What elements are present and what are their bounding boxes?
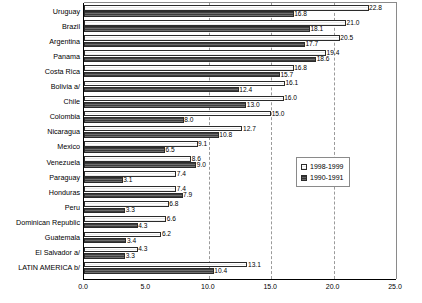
bar-value-label: 3.4: [127, 237, 136, 244]
bar-1990-1991: 12.4: [84, 87, 239, 93]
bar-value-label: 13.1: [248, 261, 261, 268]
category-label: Bolivia a/: [0, 83, 80, 90]
bar-row: Nicaragua12.710.8: [84, 125, 396, 140]
bar-row: Costa Rica16.815.7: [84, 64, 396, 79]
bar-1998-1999: 6.6: [84, 216, 166, 222]
bar-1990-1991: 3.3: [84, 208, 125, 214]
bar-row: Colombia15.08.0: [84, 110, 396, 125]
category-label: Paraguay: [0, 174, 80, 181]
bar-value-label: 17.7: [305, 41, 318, 48]
bar-row: Mexico9.16.5: [84, 140, 396, 155]
bar-value-label: 6.2: [162, 231, 171, 238]
plot-frame-right: [396, 3, 397, 279]
bar-value-label: 7.9: [183, 192, 192, 199]
bar-1990-1991: 15.7: [84, 72, 280, 78]
bar-row: El Salvador a/4.33.3: [84, 246, 396, 261]
x-axis-tick-label: 20.0: [326, 283, 340, 290]
legend-label-1990-1991: 1990-1991: [310, 174, 343, 181]
legend: 1998-1999 1990-1991: [296, 157, 350, 187]
bar-1998-1999: 16.8: [84, 65, 294, 71]
bar-value-label: 3.1: [123, 177, 132, 184]
bar-1990-1991: 10.4: [84, 268, 214, 274]
category-label: Venezuela: [0, 159, 80, 166]
legend-item-1998-1999: 1998-1999: [301, 161, 343, 172]
bar-value-label: 4.3: [138, 222, 147, 229]
bar-value-label: 3.3: [126, 252, 135, 259]
bar-value-label: 10.8: [219, 132, 232, 139]
category-label: Mexico: [0, 144, 80, 151]
category-label: Argentina: [0, 38, 80, 45]
plot-area: Uruguay22.816.8Brazil21.018.1Argentina20…: [83, 3, 396, 279]
bar-1990-1991: 3.1: [84, 177, 123, 183]
bar-value-label: 13.0: [247, 101, 260, 108]
bar-value-label: 8.0: [184, 117, 193, 124]
bar-value-label: 4.3: [138, 246, 147, 253]
bar-1990-1991: 18.6: [84, 57, 316, 63]
category-label: Costa Rica: [0, 68, 80, 75]
x-axis-line: [83, 279, 396, 280]
bar-1990-1991: 13.0: [84, 102, 246, 108]
bar-value-label: 16.8: [294, 11, 307, 18]
legend-item-1990-1991: 1990-1991: [301, 172, 343, 183]
bar-1998-1999: 8.6: [84, 156, 191, 162]
bar-value-label: 6.8: [169, 201, 178, 208]
category-label: Dominican Republic: [0, 219, 80, 226]
bar-value-label: 6.5: [166, 147, 175, 154]
x-axis-ticks: 0.05.010.015.020.025.0: [0, 283, 422, 297]
bar-1990-1991: 16.8: [84, 11, 294, 17]
category-label: Nicaragua: [0, 129, 80, 136]
legend-swatch-icon-1990-1991: [301, 175, 307, 181]
bar-1990-1991: 6.5: [84, 147, 165, 153]
bar-1990-1991: 3.3: [84, 253, 125, 259]
bar-value-label: 9.0: [197, 162, 206, 169]
bar-row: LATIN AMERICA b/13.110.4: [84, 261, 396, 276]
bar-1998-1999: 20.5: [84, 35, 340, 41]
bar-row: Brazil21.018.1: [84, 19, 396, 34]
bar-value-label: 10.4: [214, 268, 227, 275]
bar-value-label: 12.7: [243, 125, 256, 132]
category-label: Colombia: [0, 114, 80, 121]
bar-value-label: 12.4: [239, 86, 252, 93]
category-label: Uruguay: [0, 8, 80, 15]
bar-value-label: 18.1: [310, 26, 323, 33]
category-label: Brazil: [0, 23, 80, 30]
category-label: LATIN AMERICA b/: [0, 265, 80, 272]
bar-value-label: 16.1: [285, 80, 298, 87]
category-label: Guatemala: [0, 234, 80, 241]
bar-value-label: 21.0: [347, 20, 360, 27]
x-axis-tick-label: 10.0: [201, 283, 215, 290]
bar-1998-1999: 21.0: [84, 20, 346, 26]
bar-1990-1991: 7.9: [84, 193, 183, 199]
x-axis-tick-label: 25.0: [388, 283, 402, 290]
bar-value-label: 3.3: [126, 207, 135, 214]
bar-chart: Uruguay22.816.8Brazil21.018.1Argentina20…: [0, 0, 422, 303]
bar-1990-1991: 18.1: [84, 26, 310, 32]
bar-1998-1999: 7.4: [84, 186, 176, 192]
x-axis-tick-label: 0.0: [78, 283, 88, 290]
bar-1998-1999: 15.0: [84, 111, 271, 117]
bar-row: Argentina20.517.7: [84, 34, 396, 49]
bar-1990-1991: 4.3: [84, 223, 138, 229]
bar-row: Dominican Republic6.64.3: [84, 215, 396, 230]
legend-label-1998-1999: 1998-1999: [310, 163, 343, 170]
bar-1990-1991: 17.7: [84, 42, 305, 48]
bar-1998-1999: 9.1: [84, 141, 198, 147]
legend-swatch-icon-1998-1999: [301, 164, 307, 170]
bar-value-label: 9.1: [198, 140, 207, 147]
bar-row: Uruguay22.816.8: [84, 4, 396, 19]
bar-value-label: 22.8: [369, 5, 382, 12]
category-label: El Salvador a/: [0, 250, 80, 257]
bar-value-label: 18.6: [317, 56, 330, 63]
bar-1998-1999: 6.2: [84, 232, 161, 238]
bar-value-label: 16.0: [284, 95, 297, 102]
bar-row: Bolivia a/16.112.4: [84, 80, 396, 95]
bar-row: Panama19.418.6: [84, 49, 396, 64]
bar-1998-1999: 19.4: [84, 50, 326, 56]
bar-value-label: 15.7: [280, 71, 293, 78]
category-label: Panama: [0, 53, 80, 60]
bar-1990-1991: 9.0: [84, 162, 196, 168]
bar-value-label: 15.0: [272, 110, 285, 117]
bar-row: Peru6.83.3: [84, 200, 396, 215]
bar-1990-1991: 3.4: [84, 238, 126, 244]
category-label: Peru: [0, 204, 80, 211]
